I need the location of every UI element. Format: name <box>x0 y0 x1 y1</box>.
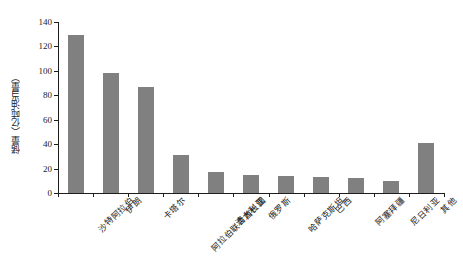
bar <box>68 35 84 193</box>
bar <box>208 172 224 193</box>
y-axis-title: 储量（亿吨油当量） <box>6 48 24 178</box>
y-tick-mark <box>54 169 58 170</box>
y-axis-title-text: 储量（亿吨油当量） <box>11 73 20 154</box>
y-tick-mark <box>54 71 58 72</box>
x-tick-label: 阿塞拜疆 <box>375 196 406 227</box>
plot-area: 020406080100120140 <box>58 22 444 194</box>
y-tick-label: 60 <box>43 115 52 125</box>
bar <box>138 87 154 193</box>
y-tick-label: 40 <box>43 139 52 149</box>
x-tick-label: 卡塔尔 <box>162 196 187 221</box>
x-axis-labels: 沙特阿拉伯伊朗卡塔尔阿拉伯联合酋长国澳大利亚俄罗斯哈萨克斯坦巴西阿塞拜疆尼日利亚… <box>58 196 458 272</box>
y-tick-label: 20 <box>43 164 52 174</box>
x-tick-label: 尼日利亚 <box>410 196 441 227</box>
bar <box>103 73 119 193</box>
bar <box>313 177 329 193</box>
x-tick-label: 俄罗斯 <box>267 196 292 221</box>
y-tick-label: 100 <box>39 66 53 76</box>
bar <box>418 143 434 193</box>
bar <box>348 178 364 193</box>
y-tick-mark <box>54 22 58 23</box>
y-tick-label: 80 <box>43 90 52 100</box>
y-tick-mark <box>54 46 58 47</box>
y-tick-label: 120 <box>39 41 53 51</box>
y-tick-label: 140 <box>39 17 53 27</box>
y-tick-mark <box>54 120 58 121</box>
x-tick-label: 澳大利亚 <box>234 196 265 227</box>
x-axis-line <box>58 193 444 194</box>
bar <box>278 176 294 193</box>
y-tick-mark <box>54 95 58 96</box>
bar <box>383 181 399 193</box>
bar <box>173 155 189 193</box>
y-tick-label: 0 <box>48 188 53 198</box>
bar-chart-figure: 储量（亿吨油当量） 020406080100120140 沙特阿拉伯伊朗卡塔尔阿… <box>0 0 463 273</box>
x-tick-label: 其他 <box>440 196 459 215</box>
bar <box>243 175 259 193</box>
y-axis-line <box>58 22 59 194</box>
y-tick-mark <box>54 144 58 145</box>
